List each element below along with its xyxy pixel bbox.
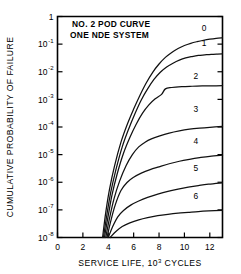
y-tick-label-1e-6: 10 (38, 177, 48, 187)
y-tick-exponent-1e-5: -5 (48, 148, 54, 154)
plot-border (58, 17, 223, 238)
x-tick-label-8: 8 (157, 242, 162, 252)
figure-container: 024681012 110-110-210-310-410-510-610-71… (0, 0, 241, 274)
chart-subtitle: ONE NDE SYSTEM (70, 30, 149, 40)
x-tick-label-4: 4 (106, 242, 111, 252)
curve-label-1: 1 (202, 38, 207, 48)
x-tick-label-0: 0 (55, 242, 60, 252)
y-tick-label-1e-2: 10 (38, 67, 48, 77)
x-axis-title-prefix: SERVICE LIFE, 10 (78, 258, 158, 268)
curve-labels: 0123456 (194, 23, 207, 202)
x-axis-title-suffix: CYCLES (162, 258, 202, 268)
x-tick-label-6: 6 (131, 242, 136, 252)
y-tick-label-1e-8: 10 (38, 233, 48, 243)
curve-5 (108, 183, 222, 238)
curve-6 (110, 210, 222, 237)
curve-label-2: 2 (194, 71, 199, 81)
plot-frame (58, 17, 223, 238)
curve-label-5: 5 (194, 163, 199, 173)
y-tick-label-1e-1: 10 (38, 39, 48, 49)
y-tick-exponent-1e-8: -8 (48, 231, 54, 237)
y-tick-label-1e-3: 10 (38, 95, 48, 105)
y-tick-exponent-1e-6: -6 (48, 176, 54, 182)
y-axis-title: CUMULATIVE PROBABILITY OF FAILURE (5, 37, 15, 218)
x-axis-tick-labels: 024681012 (55, 242, 215, 252)
curve-0 (103, 38, 223, 238)
y-tick-label-1e-5: 10 (38, 150, 48, 160)
chart-title: NO. 2 POD CURVE (72, 19, 150, 29)
y-tick-exponent-1e-7: -7 (48, 203, 54, 209)
curve-label-0: 0 (202, 23, 207, 33)
y-axis-ticks (58, 17, 223, 238)
data-curves (103, 38, 223, 238)
x-tick-label-2: 2 (81, 242, 86, 252)
x-tick-label-12: 12 (205, 242, 215, 252)
y-axis-tick-labels: 110-110-210-310-410-510-610-710-8 (38, 12, 54, 243)
pod-curve-chart: 024681012 110-110-210-310-410-510-610-71… (0, 0, 241, 274)
curve-1 (103, 54, 222, 238)
curve-label-3: 3 (194, 104, 199, 114)
y-tick-exponent-1e-3: -3 (48, 93, 54, 99)
y-tick-exponent-1e-1: -1 (48, 38, 54, 44)
y-tick-label-1e-7: 10 (38, 205, 48, 215)
curve-label-6: 6 (194, 191, 199, 201)
x-tick-label-10: 10 (180, 242, 190, 252)
curve-label-4: 4 (194, 136, 199, 146)
x-axis-title: SERVICE LIFE, 103 CYCLES (78, 258, 201, 268)
y-tick-label-1e-4: 10 (38, 122, 48, 132)
y-tick-exponent-1e-2: -2 (48, 65, 54, 71)
y-tick-exponent-1e-4: -4 (48, 120, 54, 126)
y-tick-label-1e0: 1 (49, 12, 54, 22)
